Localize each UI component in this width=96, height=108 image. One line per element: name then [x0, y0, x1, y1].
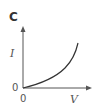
x-origin-label: 0 — [20, 94, 26, 104]
x-axis-arrow-icon — [86, 86, 92, 91]
y-axis-arrow-icon — [21, 26, 26, 32]
y-origin-label: 0 — [12, 83, 18, 93]
iv-curve — [23, 43, 78, 88]
x-axis-label: V — [70, 94, 78, 105]
y-axis-label: I — [10, 48, 14, 59]
